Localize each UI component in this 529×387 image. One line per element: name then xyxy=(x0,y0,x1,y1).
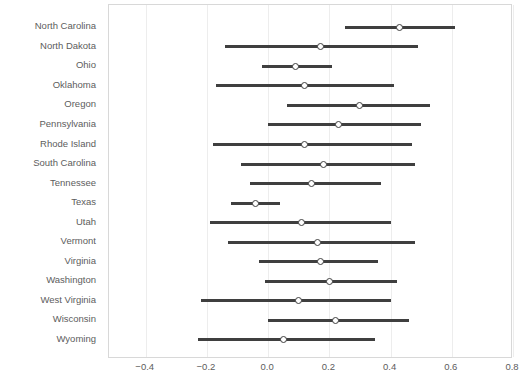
x-tick-label-3: 0.2 xyxy=(322,362,335,372)
plot-area xyxy=(108,4,512,358)
point-estimate-marker xyxy=(308,180,315,187)
x-tick-label-1: −0.2 xyxy=(197,362,216,372)
y-axis-label-rhode-island: Rhode Island xyxy=(40,139,96,149)
ci-row xyxy=(109,115,511,136)
point-estimate-marker xyxy=(301,82,308,89)
x-tick-label-5: 0.6 xyxy=(444,362,457,372)
y-axis-label-vermont: Vermont xyxy=(61,236,96,246)
y-axis-label-oregon: Oregon xyxy=(64,100,96,110)
ci-row xyxy=(109,290,511,311)
point-estimate-marker xyxy=(295,297,302,304)
forest-plot-chart: North CarolinaNorth DakotaOhioOklahomaOr… xyxy=(0,0,529,387)
y-axis-label-west-virginia: West Virginia xyxy=(40,295,96,305)
y-axis-label-utah: Utah xyxy=(76,217,96,227)
point-estimate-marker xyxy=(292,63,299,70)
x-axis-tick-labels: −0.4−0.20.00.20.40.60.8 xyxy=(0,362,529,384)
x-tick-label-2: 0.0 xyxy=(261,362,274,372)
ci-row xyxy=(109,193,511,214)
confidence-interval-bar xyxy=(268,123,421,126)
confidence-interval-bar xyxy=(241,163,415,166)
point-estimate-marker xyxy=(314,239,321,246)
confidence-interval-bar xyxy=(213,143,412,146)
x-tick-label-4: 0.4 xyxy=(383,362,396,372)
ci-row xyxy=(109,212,511,233)
y-axis-label-tennessee: Tennessee xyxy=(50,178,96,188)
y-axis-label-north-carolina: North Carolina xyxy=(35,22,96,32)
y-axis-labels: North CarolinaNorth DakotaOhioOklahomaOr… xyxy=(0,4,102,358)
y-axis-label-south-carolina: South Carolina xyxy=(33,158,96,168)
point-estimate-marker xyxy=(317,43,324,50)
point-estimate-marker xyxy=(252,200,259,207)
point-estimate-marker xyxy=(326,278,333,285)
y-axis-label-ohio: Ohio xyxy=(76,61,96,71)
point-estimate-marker xyxy=(320,161,327,168)
ci-row xyxy=(109,37,511,58)
point-estimate-marker xyxy=(301,141,308,148)
y-axis-label-oklahoma: Oklahoma xyxy=(53,80,96,90)
y-axis-label-texas: Texas xyxy=(71,197,96,207)
y-axis-label-north-dakota: North Dakota xyxy=(40,41,96,51)
point-estimate-marker xyxy=(356,102,363,109)
ci-row xyxy=(109,329,511,350)
point-estimate-marker xyxy=(335,121,342,128)
ci-row xyxy=(109,154,511,175)
point-estimate-marker xyxy=(332,317,339,324)
ci-row xyxy=(109,134,511,155)
y-axis-label-pennsylvania: Pennsylvania xyxy=(39,119,96,129)
point-estimate-marker xyxy=(396,24,403,31)
x-tick-label-0: −0.4 xyxy=(135,362,154,372)
y-axis-label-wisconsin: Wisconsin xyxy=(53,315,96,325)
x-tick-label-6: 0.8 xyxy=(505,362,518,372)
y-axis-label-virginia: Virginia xyxy=(64,256,96,266)
ci-row xyxy=(109,251,511,272)
confidence-interval-bar xyxy=(250,182,382,185)
ci-row xyxy=(109,95,511,116)
ci-row xyxy=(109,232,511,253)
point-estimate-marker xyxy=(298,219,305,226)
gridline-x-6 xyxy=(513,5,514,357)
ci-row xyxy=(109,76,511,97)
y-axis-label-washington: Washington xyxy=(46,275,96,285)
point-estimate-marker xyxy=(317,258,324,265)
confidence-interval-bar xyxy=(228,241,415,244)
ci-row xyxy=(109,17,511,38)
ci-row xyxy=(109,56,511,77)
ci-row xyxy=(109,310,511,331)
point-estimate-marker xyxy=(280,336,287,343)
ci-row xyxy=(109,173,511,194)
ci-row xyxy=(109,271,511,292)
y-axis-label-wyoming: Wyoming xyxy=(56,334,96,344)
